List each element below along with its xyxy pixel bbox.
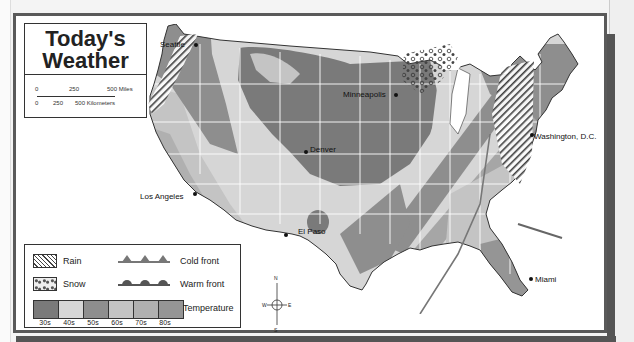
temp-label-70s: 70s [129,319,153,326]
scale-miles-250: 250 [69,86,79,92]
compass-s: S [274,327,277,333]
legend-cold-front-label: Cold front [180,256,219,266]
legend-temperature-label: Temperature [183,303,234,313]
city-label-minneapolis: Minneapolis [343,90,386,99]
temp-band-40s [59,301,84,318]
temp-label-60s: 60s [105,319,129,326]
temp-band-80s [159,301,183,318]
temp-label-40s: 40s [57,319,81,326]
temp-band-50s [84,301,109,318]
page-left-edge [0,0,11,342]
frame-shadow-right [607,34,615,342]
rain-swatch-icon [33,254,57,268]
city-label-miami: Miami [535,275,556,284]
compass-icon [267,283,287,325]
temp-label-80s: 80s [153,319,177,326]
title-line-2: Weather [25,50,146,72]
compass-e: E [288,302,291,308]
frame-shadow-bottom [16,336,616,342]
legend-snow-label: Snow [63,279,86,289]
city-label-el-paso: El Paso [298,227,326,236]
title-divider [25,74,146,75]
compass-rose: N W E S [262,275,292,335]
scale-km-500: 500 Kilometers [75,100,115,106]
scale-km-250: 250 [53,100,63,106]
map-title: Today's Weather [25,28,146,72]
temp-band-60s [109,301,134,318]
map-legend: Rain Snow Cold front Warm front Temperat… [24,244,241,328]
title-box: Today's Weather 0 250 500 Miles 0 250 50… [24,23,147,118]
temp-label-50s: 50s [81,319,105,326]
city-label-seattle: Seattle [160,40,185,49]
city-label-washington-dc: Washington, D.C. [534,132,596,141]
temperature-scale [33,300,184,319]
scale-line [37,96,115,97]
city-label-denver: Denver [310,145,336,154]
scale-km-0: 0 [35,100,38,106]
warm-front-icon [118,275,170,287]
temperature-band-labels: 30s 40s 50s 60s 70s 80s [33,319,177,326]
title-line-1: Today's [25,28,146,50]
scale-miles-0: 0 [35,86,38,92]
legend-warm-front-label: Warm front [180,279,224,289]
scale-bar: 0 250 500 Miles 0 250 500 Kilometers [35,86,145,114]
legend-rain-label: Rain [63,256,82,266]
scale-miles-500: 500 Miles [107,86,133,92]
temp-band-30s [34,301,59,318]
city-label-los-angeles: Los Angeles [140,192,184,201]
temp-band-70s [134,301,159,318]
temp-label-30s: 30s [33,319,57,326]
compass-n: N [274,275,278,281]
cold-front-icon [118,252,170,264]
snow-swatch-icon [33,277,57,291]
